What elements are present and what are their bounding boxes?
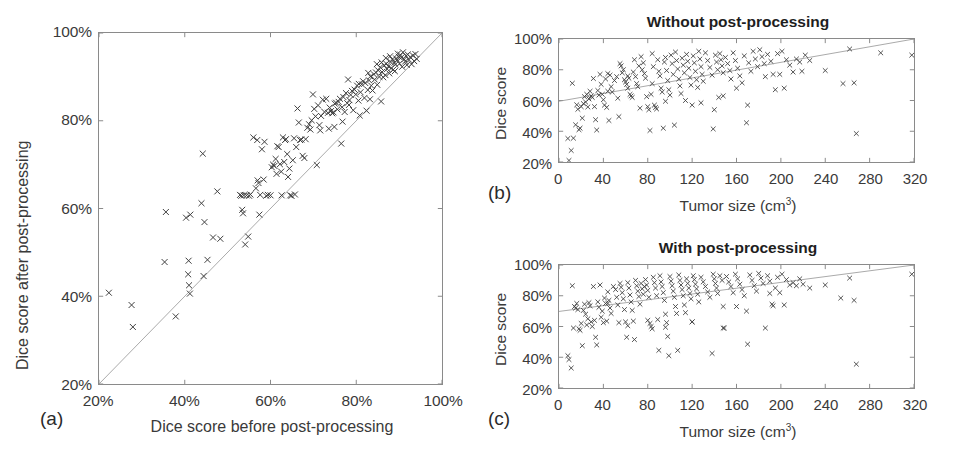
panel-a-plot-area (98, 32, 443, 385)
panel-b-y-axis-title: Dice score (492, 67, 510, 140)
panel-c-xtick-8: 320 (903, 396, 928, 413)
panel-b-x-axis-title-main: Tumor size (cm (680, 197, 786, 214)
panel-b-xtick-6: 240 (813, 170, 838, 187)
panel-b-xtick-5: 200 (769, 170, 794, 187)
panel-b-xtick-4: 160 (724, 170, 749, 187)
panel-b-letter: (b) (488, 182, 511, 204)
panel-a-letter: (a) (40, 408, 63, 430)
panel-c-xtick-6: 240 (813, 396, 838, 413)
panel-c-xtick-4: 160 (724, 396, 749, 413)
panel-b-scatter-canvas (559, 39, 914, 162)
panel-b-ytick-3: 80% (480, 61, 552, 78)
panel-c-ytick-2: 60% (480, 318, 552, 335)
panel-c-x-axis-title: Tumor size (cm3) (680, 422, 797, 441)
panel-c-xtick-1: 40 (594, 396, 611, 413)
panel-a-xtick-4: 100% (423, 392, 462, 410)
panel-b-xtick-1: 40 (594, 170, 611, 187)
panel-b-ytick-4: 100% (480, 30, 552, 47)
panel-b: Without post-processing 100% 80% 60% 40%… (480, 0, 960, 228)
panel-b-plot-area (558, 38, 915, 163)
panel-c-plot-area (558, 264, 915, 389)
panel-a-xtick-3: 80% (341, 392, 372, 410)
panel-c: With post-processing 100% 80% 60% 40% 20… (480, 226, 960, 455)
panel-a-xtick-2: 60% (255, 392, 286, 410)
panel-c-xtick-2: 80 (639, 396, 656, 413)
panel-b-xtick-3: 120 (680, 170, 705, 187)
panel-c-ytick-3: 80% (480, 287, 552, 304)
figure-root: 100% 80% 60% 40% 20% 20% 40% 60% 80% 100… (0, 0, 960, 455)
panel-b-xtick-8: 320 (903, 170, 928, 187)
panel-a-ytick-0: 20% (18, 376, 92, 394)
panel-c-title: With post-processing (659, 239, 817, 257)
panel-c-xtick-3: 120 (680, 396, 705, 413)
panel-b-ytick-1: 40% (480, 123, 552, 140)
panel-b-x-axis-title-tail: ) (791, 197, 796, 214)
panel-a-x-axis-title: Dice score before post-processing (151, 418, 394, 436)
panel-b-title: Without post-processing (647, 13, 829, 31)
panel-a-xtick-0: 20% (83, 392, 114, 410)
panel-a-y-axis-title: Dice score after post-processing (14, 141, 32, 370)
panel-b-ytick-2: 60% (480, 92, 552, 109)
panel-c-x-axis-title-tail: ) (791, 423, 796, 440)
panel-c-y-axis-title: Dice score (492, 293, 510, 366)
panel-c-xtick-0: 0 (554, 396, 562, 413)
panel-c-ytick-4: 100% (480, 256, 552, 273)
panel-c-x-axis-title-main: Tumor size (cm (680, 423, 786, 440)
panel-c-letter: (c) (488, 408, 510, 430)
panel-a-scatter-canvas (99, 33, 442, 384)
panel-b-xtick-0: 0 (554, 170, 562, 187)
panel-a-ytick-3: 80% (18, 111, 92, 129)
panel-c-ytick-1: 40% (480, 349, 552, 366)
panel-a-ytick-4: 100% (18, 23, 92, 41)
panel-c-ytick-0: 20% (480, 381, 552, 398)
panel-b-x-axis-title: Tumor size (cm3) (680, 196, 797, 215)
panel-a: 100% 80% 60% 40% 20% 20% 40% 60% 80% 100… (0, 0, 470, 455)
panel-c-xtick-7: 280 (858, 396, 883, 413)
panel-b-xtick-2: 80 (639, 170, 656, 187)
panel-a-xtick-1: 40% (169, 392, 200, 410)
panel-b-xtick-7: 280 (858, 170, 883, 187)
panel-b-ytick-0: 20% (480, 155, 552, 172)
panel-c-scatter-canvas (559, 265, 914, 388)
panel-c-xtick-5: 200 (769, 396, 794, 413)
